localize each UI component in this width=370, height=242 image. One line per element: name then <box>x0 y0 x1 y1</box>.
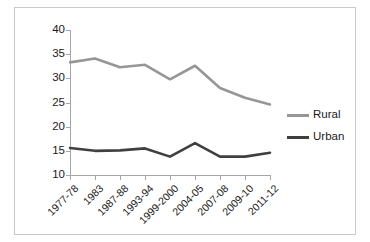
x-axis-tick-mark <box>145 176 146 180</box>
y-axis-tick-label: 40 <box>39 24 65 36</box>
legend-item-rural[interactable]: Rural <box>287 104 365 126</box>
legend-swatch-rural <box>287 114 309 117</box>
line-series-urban <box>70 143 270 157</box>
y-axis-tick-label: 15 <box>39 145 65 157</box>
chart-legend: RuralUrban <box>287 104 365 148</box>
x-axis-tick-mark <box>120 176 121 180</box>
legend-item-urban[interactable]: Urban <box>287 126 365 148</box>
legend-label-urban: Urban <box>313 131 344 143</box>
legend-swatch-urban <box>287 136 309 139</box>
chart-frame: 10152025303540 1977-7819831987-881993-94… <box>14 7 356 235</box>
x-axis-tick-mark <box>70 176 71 180</box>
x-axis-tick-mark <box>95 176 96 180</box>
x-axis-tick-mark <box>270 176 271 180</box>
series-lines <box>70 30 270 175</box>
x-axis-tick-mark <box>170 176 171 180</box>
legend-label-rural: Rural <box>313 109 340 121</box>
x-axis-tick-mark <box>220 176 221 180</box>
x-axis-tick-mark <box>195 176 196 180</box>
y-axis-tick-label: 25 <box>39 97 65 109</box>
plot-area <box>70 30 270 175</box>
y-axis-tick-label: 20 <box>39 121 65 133</box>
y-axis-tick-label: 10 <box>39 169 65 181</box>
chart-figure: 10152025303540 1977-7819831987-881993-94… <box>0 0 370 242</box>
x-axis-tick-mark <box>245 176 246 180</box>
y-axis-tick-label: 35 <box>39 48 65 60</box>
line-series-rural <box>70 59 270 105</box>
y-axis-tick-label: 30 <box>39 72 65 84</box>
